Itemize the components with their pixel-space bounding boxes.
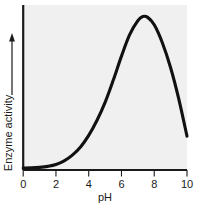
y-axis-group: Enzyme activity [2, 5, 23, 171]
x-tick-label-4: 4 [86, 178, 92, 190]
y-axis-arrow-icon [9, 33, 15, 42]
x-tick-label-2: 2 [53, 178, 59, 190]
y-axis-title: Enzyme activity [2, 94, 14, 171]
enzyme-activity-ph-chart: Enzyme activity 0246810 pH [0, 0, 200, 208]
x-axis-title: pH [98, 191, 112, 203]
x-tick-label-6: 6 [118, 178, 124, 190]
x-tick-label-10: 10 [181, 178, 193, 190]
x-tick-label-8: 8 [151, 178, 157, 190]
chart-canvas: Enzyme activity 0246810 pH [0, 0, 200, 208]
x-axis-group: 0246810 pH [20, 170, 193, 203]
plot-background [23, 5, 187, 170]
x-tick-label-0: 0 [20, 178, 26, 190]
x-axis-tick-labels: 0246810 [20, 178, 193, 190]
